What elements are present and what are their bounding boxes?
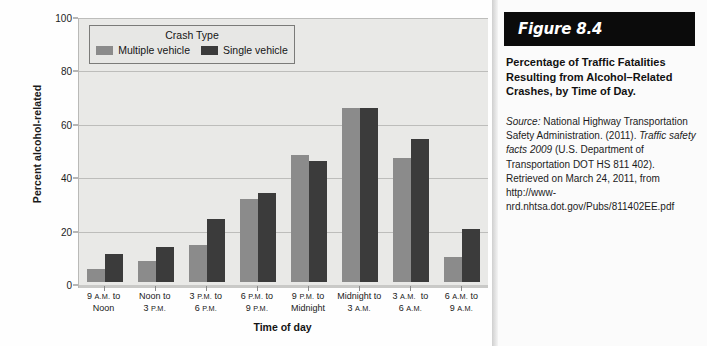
bar-multiple-vehicle[interactable]	[87, 269, 105, 282]
y-tick-mark	[73, 285, 78, 286]
figure-caption-panel: Figure 8.4 Percentage of Traffic Fatalit…	[492, 0, 707, 346]
y-axis-label: Percent alcohol-related	[31, 59, 43, 229]
bar-single-vehicle[interactable]	[258, 193, 276, 282]
bar-multiple-vehicle[interactable]	[240, 199, 258, 282]
figure-source: Source: National Highway Transportation …	[506, 115, 696, 214]
y-tick-label: 40	[32, 173, 72, 184]
x-axis-label: Time of day	[78, 321, 487, 333]
figure-title: Percentage of Traffic Fatalities Resulti…	[506, 55, 692, 99]
bar-group	[335, 18, 386, 285]
x-tick-mark	[410, 286, 411, 291]
bar-single-vehicle[interactable]	[207, 219, 225, 282]
legend-swatch-multi	[96, 46, 113, 55]
bar-multiple-vehicle[interactable]	[393, 158, 411, 282]
bar-single-vehicle[interactable]	[105, 254, 123, 282]
panel-edge-shadow	[492, 0, 498, 346]
y-tick-mark	[73, 178, 78, 179]
bar-single-vehicle[interactable]	[156, 247, 174, 282]
bar-single-vehicle[interactable]	[360, 108, 378, 282]
y-tick-label: 0	[32, 280, 72, 291]
legend-item[interactable]: Multiple vehicle	[96, 44, 190, 56]
bar-multiple-vehicle[interactable]	[444, 257, 462, 282]
x-tick-mark	[461, 286, 462, 291]
x-tick-mark	[308, 286, 309, 291]
y-tick-mark	[73, 71, 78, 72]
figure-number-banner: Figure 8.4	[504, 12, 695, 46]
legend-label: Single vehicle	[223, 44, 288, 56]
y-tick-label: 100	[32, 13, 72, 24]
x-tick-mark	[257, 286, 258, 291]
x-axis-ticks: 9 A.M. toNoonNoon to3 P.M.3 P.M. to6 P.M…	[78, 291, 487, 321]
bar-multiple-vehicle[interactable]	[291, 155, 309, 282]
legend-item[interactable]: Single vehicle	[201, 44, 288, 56]
source-label: Source:	[506, 116, 540, 127]
bar-single-vehicle[interactable]	[462, 229, 480, 282]
x-tick-mark	[206, 286, 207, 291]
x-axis-baseline	[79, 285, 488, 288]
source-title: Traffic safety facts 2009	[506, 130, 696, 155]
y-tick-mark	[73, 18, 78, 19]
legend-label: Multiple vehicle	[118, 44, 190, 56]
bar-multiple-vehicle[interactable]	[138, 261, 156, 282]
y-tick-label: 60	[32, 119, 72, 130]
chart-area: Percent alcohol-related 020406080100 Cra…	[0, 0, 492, 346]
legend-title: Crash Type	[90, 29, 294, 41]
x-tick-mark	[155, 286, 156, 291]
bar-single-vehicle[interactable]	[309, 161, 327, 282]
bar-multiple-vehicle[interactable]	[342, 108, 360, 282]
legend-items: Multiple vehicleSingle vehicle	[90, 44, 294, 56]
y-tick-mark	[73, 231, 78, 232]
legend-swatch-single	[201, 46, 218, 55]
bar-group	[437, 18, 488, 285]
bar-multiple-vehicle[interactable]	[189, 245, 207, 282]
x-tick-label: 6 A.M. to9 A.M.	[430, 291, 493, 314]
y-tick-mark	[73, 124, 78, 125]
legend: Crash Type Multiple vehicleSingle vehicl…	[89, 25, 295, 64]
x-tick-mark	[104, 286, 105, 291]
bar-single-vehicle[interactable]	[411, 139, 429, 282]
figure-number-label: Figure 8.4	[518, 20, 602, 38]
figure-container: Percent alcohol-related 020406080100 Cra…	[0, 0, 707, 346]
bar-group	[386, 18, 437, 285]
y-tick-label: 80	[32, 66, 72, 77]
y-tick-label: 20	[32, 226, 72, 237]
x-tick-mark	[359, 286, 360, 291]
